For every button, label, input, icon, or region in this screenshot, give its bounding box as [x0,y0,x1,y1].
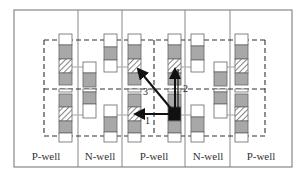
cell-column-f-bottom [191,105,204,142]
cell-column-a-bottom [59,89,72,142]
well-label-1: P-well [16,150,76,162]
cell-column-f-top [191,34,204,72]
cell-column-g-top [214,62,227,86]
well-label-4: N-well [178,150,238,162]
cell-column-c-top [104,34,117,72]
cell-column-g-bottom [214,89,227,118]
cell-column-b-top [83,62,96,87]
cell-column-a-top [59,34,72,85]
cell-column-d-bottom [128,89,141,142]
well-label-5: P-well [231,150,291,162]
cell-column-h-bottom [235,89,248,142]
cell-column-h-top [235,34,248,85]
cell-column-d-top [128,34,141,85]
well-label-2: N-well [70,150,130,162]
arrow-label-2: 2 [183,83,188,94]
cell-column-b-bottom [83,89,96,118]
arrow-label-1: 1 [145,115,150,126]
cell-column-c-bottom [104,105,117,142]
well-label-3: P-well [124,150,184,162]
arrow-label-3: 3 [143,86,148,97]
